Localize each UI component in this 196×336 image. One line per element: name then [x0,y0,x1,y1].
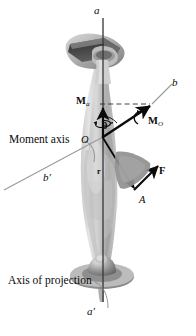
moment-axis-label-b-prime: b′ [43,172,51,183]
vector-label-r: r [97,168,101,176]
axis-label-a-prime: a′ [87,306,95,317]
origin-marker [102,136,105,139]
point-label-a: A [139,195,145,206]
moment-axis-label-b: b [172,77,178,88]
vector-label-f: F [159,166,165,177]
caption-moment-axis: Moment axis [9,134,69,146]
caption-axis-of-projection: Axis of projection [8,275,92,287]
angle-label-theta: θ [102,121,107,132]
axis-label-a-top: a [94,5,100,16]
vector-label-m-o-sub: O [158,120,163,128]
vector-label-m-a-sub: a [86,100,90,108]
figure-canvas: a a′ b b′ Ma MO θ O r F A Moment axis Ax… [0,0,196,336]
vector-label-m-a-main: M [76,95,86,106]
vector-label-m-a: Ma [76,96,89,108]
vector-label-m-o: MO [148,116,163,128]
origin-label-o: O [81,135,89,146]
vector-label-m-o-main: M [148,115,158,126]
force-bracket [115,152,151,189]
